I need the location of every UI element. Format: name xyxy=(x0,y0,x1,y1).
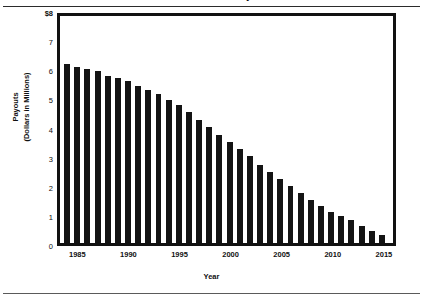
bar[interactable] xyxy=(317,206,325,243)
bar[interactable] xyxy=(195,120,203,243)
bar[interactable] xyxy=(358,226,366,243)
bar-slot xyxy=(204,16,214,243)
bar[interactable] xyxy=(175,105,183,243)
y-tick-label: 7 xyxy=(49,38,53,47)
bar-slot xyxy=(255,16,265,243)
bar[interactable] xyxy=(83,69,91,244)
x-tick-label: 1995 xyxy=(171,250,188,259)
bar-slot xyxy=(72,16,82,243)
bar[interactable] xyxy=(185,112,193,243)
bar-series xyxy=(62,16,387,243)
y-axis-label-line2: (Dollars in Millions) xyxy=(21,42,32,172)
bar-slot xyxy=(357,16,367,243)
bar-slot xyxy=(123,16,133,243)
bar[interactable] xyxy=(94,71,102,243)
bar[interactable] xyxy=(114,78,122,243)
top-horizontal-rule xyxy=(3,6,420,7)
bar[interactable] xyxy=(165,100,173,243)
bar[interactable] xyxy=(276,179,284,243)
x-axis-ticks: 1985199019952000200520102015 xyxy=(57,250,396,262)
x-tick-label: 2005 xyxy=(273,250,290,259)
bar-slot xyxy=(296,16,306,243)
bar-slot xyxy=(316,16,326,243)
bar-slot xyxy=(306,16,316,243)
bar[interactable] xyxy=(226,142,234,243)
x-tick-label: 1990 xyxy=(120,250,137,259)
y-tick-label: 2 xyxy=(49,183,53,192)
x-tick-label: 2000 xyxy=(222,250,239,259)
bar[interactable] xyxy=(124,81,132,243)
x-tick-label: 1985 xyxy=(69,250,86,259)
bar[interactable] xyxy=(246,156,254,243)
bar-slot xyxy=(367,16,377,243)
y-tick-label: 4 xyxy=(49,125,53,134)
y-tick-label: $8 xyxy=(45,9,53,18)
bar-slot xyxy=(62,16,72,243)
bar[interactable] xyxy=(337,216,345,243)
bar[interactable] xyxy=(378,235,386,244)
bar-slot xyxy=(113,16,123,243)
bar-slot xyxy=(194,16,204,243)
bar-slot xyxy=(133,16,143,243)
y-tick-label: 5 xyxy=(49,96,53,105)
bar-slot xyxy=(265,16,275,243)
bar[interactable] xyxy=(287,186,295,243)
x-tick-label: 2010 xyxy=(324,250,341,259)
bar-slot xyxy=(326,16,336,243)
bottom-horizontal-rule xyxy=(3,293,420,294)
bar-slot xyxy=(103,16,113,243)
bar[interactable] xyxy=(327,212,335,243)
bar[interactable] xyxy=(256,165,264,243)
bar[interactable] xyxy=(104,76,112,243)
y-tick-label: 6 xyxy=(49,67,53,76)
y-tick-label: 1 xyxy=(49,212,53,221)
x-axis-label: Year xyxy=(0,272,423,281)
bar-slot xyxy=(336,16,346,243)
bar-slot xyxy=(143,16,153,243)
y-axis-label: Payouts (Dollars in Millions) xyxy=(10,42,32,172)
bar[interactable] xyxy=(155,94,163,243)
bar-slot xyxy=(245,16,255,243)
bar[interactable] xyxy=(368,231,376,243)
bar-slot xyxy=(164,16,174,243)
bar[interactable] xyxy=(205,127,213,243)
bar[interactable] xyxy=(134,86,142,243)
chart-title-clipped: Estimated Annual Payouts xyxy=(0,0,423,3)
bar[interactable] xyxy=(266,172,274,243)
bar[interactable] xyxy=(307,200,315,243)
bar-slot xyxy=(285,16,295,243)
bar-slot xyxy=(235,16,245,243)
bar[interactable] xyxy=(347,220,355,243)
bar-slot xyxy=(225,16,235,243)
y-tick-label: 0 xyxy=(49,242,53,251)
bar[interactable] xyxy=(73,67,81,243)
bar-slot xyxy=(184,16,194,243)
bar-slot xyxy=(377,16,387,243)
bar-slot xyxy=(153,16,163,243)
bar-slot xyxy=(346,16,356,243)
bar[interactable] xyxy=(144,90,152,243)
bar-slot xyxy=(92,16,102,243)
bar-slot xyxy=(275,16,285,243)
bar-slot xyxy=(174,16,184,243)
bar[interactable] xyxy=(215,135,223,243)
chart-page: Estimated Annual Payouts $876543210 Payo… xyxy=(0,0,423,301)
bar[interactable] xyxy=(297,193,305,243)
bar[interactable] xyxy=(63,64,71,243)
y-axis-label-line1: Payouts xyxy=(10,42,21,172)
bar-slot xyxy=(82,16,92,243)
y-tick-label: 3 xyxy=(49,154,53,163)
bar[interactable] xyxy=(236,149,244,243)
plot-area xyxy=(60,16,393,243)
bar-slot xyxy=(214,16,224,243)
x-tick-label: 2015 xyxy=(376,250,393,259)
